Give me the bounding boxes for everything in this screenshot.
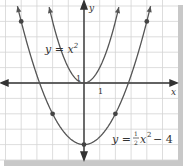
transformed-equation-label: y = 1 2 x 2 − 4 — [111, 130, 173, 146]
plotted-point — [19, 19, 24, 24]
svg-text:y =: y = — [111, 133, 131, 146]
svg-text:x: x — [140, 133, 147, 146]
x-axis-label: x — [171, 87, 176, 97]
parabola-graph: x y 1 1 y = x2 y = 1 2 x 2 − 4 — [0, 0, 183, 166]
x-tick-label: 1 — [98, 87, 103, 96]
plotted-point — [113, 111, 118, 116]
svg-text:2: 2 — [147, 131, 151, 139]
svg-text:2: 2 — [134, 139, 138, 146]
svg-text:− 4: − 4 — [153, 133, 173, 146]
parent-equation-label: y = x2 — [44, 42, 79, 56]
plotted-point — [82, 142, 87, 147]
y-axis-label: y — [88, 3, 95, 13]
svg-text:1: 1 — [134, 130, 138, 137]
plotted-point — [144, 19, 149, 24]
plotted-point — [50, 111, 55, 116]
